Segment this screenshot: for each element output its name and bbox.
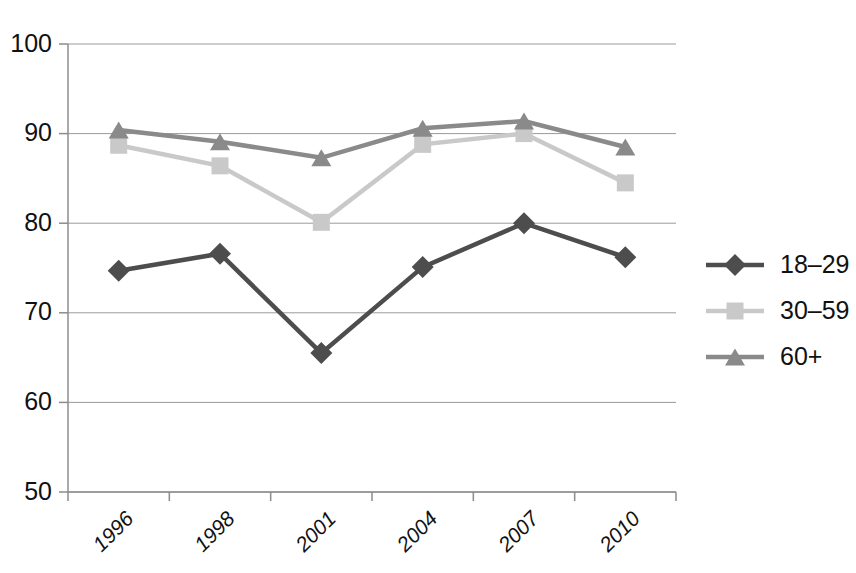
data-point-30–59-1996 xyxy=(110,137,127,154)
y-tick-label-50: 50 xyxy=(24,477,52,505)
data-point-30–59-2010 xyxy=(617,174,634,191)
y-tick-label-80: 80 xyxy=(24,208,52,236)
legend-swatch-marker-30–59 xyxy=(727,303,744,320)
line-chart: 5060708090100 199619982001200420072010 1… xyxy=(0,0,856,573)
data-point-30–59-2004 xyxy=(414,136,431,153)
data-point-30–59-2001 xyxy=(313,214,330,231)
legend-label-30–59: 30–59 xyxy=(780,296,850,324)
y-tick-label-90: 90 xyxy=(24,118,52,146)
data-point-30–59-1998 xyxy=(212,157,229,174)
y-tick-label-60: 60 xyxy=(24,387,52,415)
legend-label-60+: 60+ xyxy=(780,342,822,370)
chart-background xyxy=(0,0,856,573)
chart-canvas: 5060708090100 199619982001200420072010 1… xyxy=(0,0,856,573)
y-tick-label-100: 100 xyxy=(10,29,52,57)
y-tick-label-70: 70 xyxy=(24,297,52,325)
legend-label-18–29: 18–29 xyxy=(780,250,850,278)
